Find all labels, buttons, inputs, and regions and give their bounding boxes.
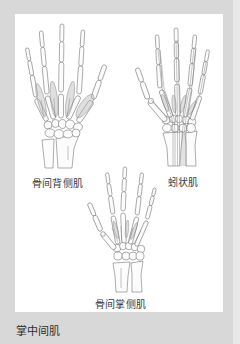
- section-title: 掌中间肌: [16, 325, 60, 338]
- label-lumbricals: 蚓状肌: [168, 177, 199, 188]
- label-dorsal-interossei: 骨间背侧肌: [32, 178, 83, 189]
- illustration-panel: [15, 14, 223, 312]
- label-palmar-interossei: 骨间掌侧肌: [95, 299, 146, 310]
- page-outer-margin: [233, 0, 240, 344]
